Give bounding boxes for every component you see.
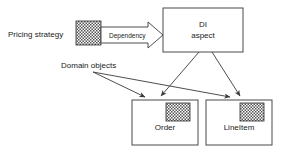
edge-domain-objects-to-lineitem xyxy=(93,72,230,97)
box-order: Order xyxy=(132,100,198,145)
diagram-canvas: Pricing strategy Dependency DI aspect Do… xyxy=(0,0,286,155)
box-di-aspect-line2: aspect xyxy=(191,31,215,40)
box-lineitem: LineItem xyxy=(206,100,272,145)
edge-domain-objects-to-order xyxy=(93,72,145,97)
checkered-aspect-icon-pricing xyxy=(76,21,101,45)
box-di-aspect-line1: DI xyxy=(199,20,207,29)
edge-di-to-lineitem xyxy=(212,52,240,96)
domain-objects-label: Domain objects xyxy=(61,61,116,70)
checkered-aspect-icon-lineitem xyxy=(240,103,264,121)
diagram-svg: Pricing strategy Dependency DI aspect Do… xyxy=(0,0,286,155)
edge-di-to-order xyxy=(161,52,199,96)
pricing-strategy-label: Pricing strategy xyxy=(8,30,63,39)
box-lineitem-label: LineItem xyxy=(224,123,255,132)
checkered-aspect-icon-order xyxy=(166,103,190,121)
box-order-label: Order xyxy=(155,123,176,132)
dependency-label: Dependency xyxy=(109,32,146,40)
box-di-aspect: DI aspect xyxy=(163,8,243,52)
